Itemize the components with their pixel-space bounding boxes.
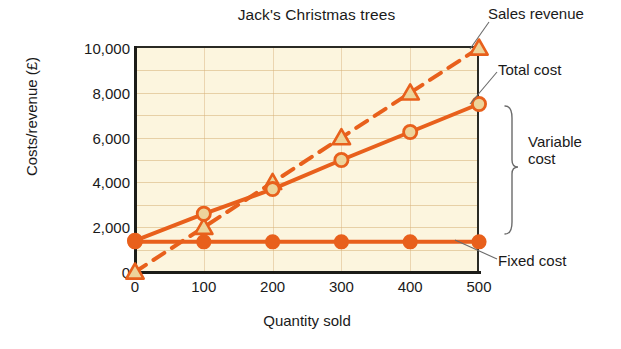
data-point-fixed-cost <box>473 235 486 248</box>
series-line-total-cost <box>135 104 479 241</box>
series-line-sales-revenue <box>135 48 479 272</box>
chart-figure: Jack's Christmas trees Costs/revenue (£)… <box>0 0 621 349</box>
data-point-total-cost <box>266 183 279 196</box>
series-overlay <box>0 0 621 349</box>
annotation-total-cost: Total cost <box>498 61 561 78</box>
data-point-fixed-cost <box>129 235 142 248</box>
data-point-total-cost <box>335 153 348 166</box>
data-point-fixed-cost <box>335 235 348 248</box>
annotation-sales-revenue: Sales revenue <box>488 5 584 22</box>
curly-brace-variable-cost <box>505 106 518 234</box>
series-total-cost <box>128 97 485 247</box>
annotation-variable-cost-line1: Variable <box>528 133 582 150</box>
data-point-total-cost <box>197 207 210 220</box>
annotation-variable-cost-line2: cost <box>528 150 582 167</box>
data-point-total-cost <box>404 125 417 138</box>
data-point-sales-revenue <box>470 40 487 55</box>
annotation-leader-lines <box>455 22 518 259</box>
data-point-fixed-cost <box>404 235 417 248</box>
data-point-fixed-cost <box>197 235 210 248</box>
annotation-fixed-cost: Fixed cost <box>498 252 566 269</box>
data-point-fixed-cost <box>266 235 279 248</box>
series-fixed-cost <box>129 235 486 248</box>
annotation-variable-cost: Variable cost <box>528 133 582 168</box>
